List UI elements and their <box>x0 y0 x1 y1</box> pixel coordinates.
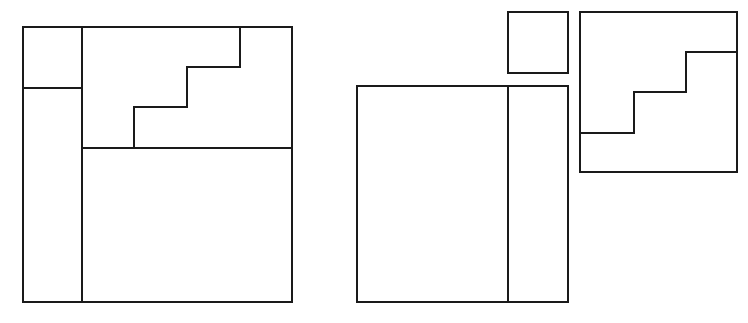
assembled-square-divider-lines <box>23 27 292 302</box>
dissection-diagram <box>0 0 748 323</box>
small-square-figure <box>508 12 568 73</box>
staircase-square-staircase-cut <box>580 52 737 133</box>
staircase-square-figure <box>580 12 737 172</box>
split-rectangle-outline <box>357 86 568 302</box>
diagram-svg <box>0 0 748 323</box>
assembled-square-outline <box>23 27 292 302</box>
assembled-square-staircase-cut <box>134 27 240 148</box>
small-square-outline <box>508 12 568 73</box>
assembled-square-figure <box>23 27 292 302</box>
split-rectangle-figure <box>357 86 568 302</box>
